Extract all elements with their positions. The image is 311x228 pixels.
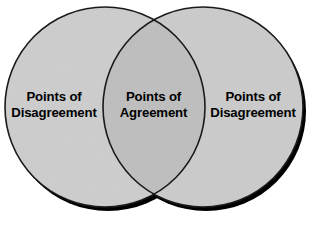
venn-diagram-canvas xyxy=(0,0,311,228)
venn-diagram: Points of Disagreement Points of Agreeme… xyxy=(0,0,311,228)
